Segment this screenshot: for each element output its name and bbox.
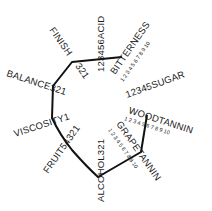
axis-label-alcohol: ALCOHOL321 xyxy=(95,139,106,202)
axis-label-sugar: 12345SUGAR xyxy=(124,68,186,100)
axis-label-fruit: FRUIT54321 xyxy=(41,123,82,176)
wine-radar-chart: 123456ACID BITTERNESS 1 2 3 4 5 6 7 8 9 … xyxy=(0,0,212,211)
axis-scale-finish: 321 xyxy=(73,61,91,81)
axis-label-acid: 123456ACID xyxy=(95,16,106,72)
axis-label-balance: BALANCE321 xyxy=(5,67,68,97)
axis-label-finish: FINISH xyxy=(47,25,75,58)
